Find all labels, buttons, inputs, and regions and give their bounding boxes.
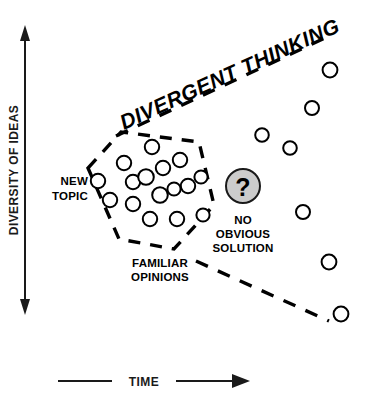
idea-circle: [143, 212, 157, 226]
no-obvious-solution-line-2: OBVIOUS: [216, 228, 271, 240]
idea-circle: [170, 212, 184, 226]
y-axis-arrow-up-icon: [20, 25, 30, 41]
question-mark-icon: ?: [235, 173, 250, 201]
x-axis: TIME: [58, 374, 250, 389]
y-axis-label: DIVERSITY OF IDEAS: [7, 105, 21, 235]
familiar-opinions-line-2: OPINIONS: [131, 271, 189, 283]
banner-divergent-thinking: DIVERGENT THINKING: [116, 14, 343, 134]
label-new-topic: NEW TOPIC: [52, 175, 88, 202]
idea-circle: [322, 255, 337, 270]
idea-circle: [126, 197, 140, 211]
lower-divergence-line: [196, 261, 329, 321]
divergent-outer-ideas: [255, 63, 348, 322]
idea-circle: [138, 169, 154, 185]
x-axis-label: TIME: [129, 375, 159, 389]
label-no-obvious-solution: NO OBVIOUS SOLUTION: [212, 214, 273, 254]
y-axis: DIVERSITY OF IDEAS: [7, 25, 30, 315]
idea-circle: [156, 161, 170, 175]
no-obvious-solution-line-3: SOLUTION: [212, 242, 273, 254]
idea-circle: [167, 182, 180, 195]
idea-circle: [196, 208, 209, 221]
idea-circle: [283, 141, 297, 155]
divergent-thinking-diagram: DIVERSITY OF IDEAS TIME DIVERGENT THINKI…: [0, 0, 367, 407]
idea-circle: [173, 153, 187, 167]
no-obvious-solution-line-1: NO: [234, 214, 252, 226]
idea-circle: [145, 140, 159, 154]
idea-circle: [91, 174, 105, 188]
new-topic-line-1: NEW: [61, 175, 88, 187]
idea-circle: [323, 63, 338, 78]
new-topic-line-2: TOPIC: [52, 190, 88, 202]
problem-node: ?: [226, 169, 260, 203]
diagram-canvas: DIVERSITY OF IDEAS TIME DIVERGENT THINKI…: [0, 0, 367, 407]
idea-circle: [152, 187, 168, 203]
idea-circle: [305, 101, 319, 115]
y-axis-arrow-down-icon: [20, 299, 30, 315]
idea-circle: [255, 128, 269, 142]
familiar-opinions-line-1: FAMILIAR: [132, 257, 188, 269]
idea-circle: [103, 193, 117, 207]
idea-circle: [117, 156, 131, 170]
idea-circle: [194, 170, 207, 183]
x-axis-arrow-right-icon: [232, 374, 250, 388]
label-familiar-opinions: FAMILIAR OPINIONS: [131, 257, 189, 283]
idea-circle: [334, 307, 349, 322]
idea-circle: [181, 179, 195, 193]
idea-circle: [296, 205, 310, 219]
